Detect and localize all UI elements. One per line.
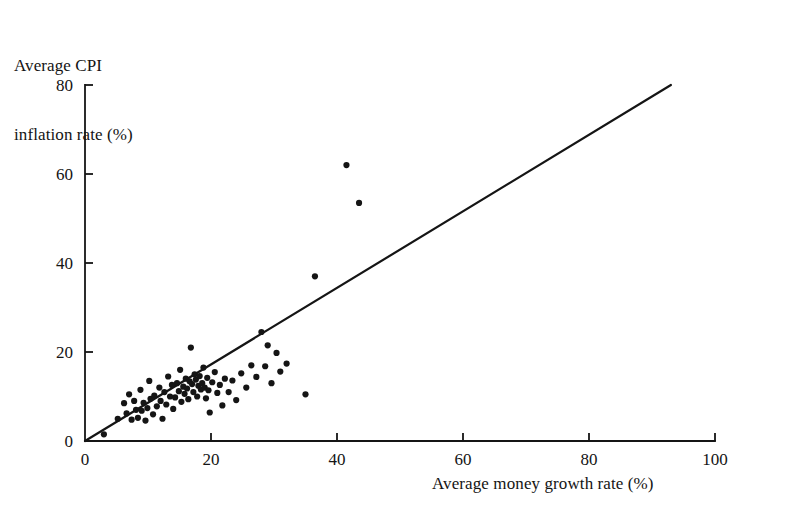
data-point	[222, 376, 228, 382]
data-point	[219, 402, 225, 408]
data-point	[170, 406, 176, 412]
data-point	[214, 390, 220, 396]
data-point	[243, 385, 249, 391]
data-point	[172, 394, 178, 400]
data-point	[203, 395, 209, 401]
data-point	[277, 368, 283, 374]
data-point	[165, 373, 171, 379]
data-point	[178, 399, 184, 405]
data-point	[174, 380, 180, 386]
data-point	[265, 342, 271, 348]
data-points	[101, 162, 362, 437]
x-tick-label: 20	[203, 450, 220, 469]
data-point	[140, 400, 146, 406]
data-point	[126, 391, 132, 397]
data-point	[137, 387, 143, 393]
data-point	[133, 407, 139, 413]
data-point	[185, 396, 191, 402]
x-tick-label: 60	[455, 450, 472, 469]
data-point	[343, 162, 349, 168]
data-point	[268, 380, 274, 386]
data-point	[163, 401, 169, 407]
y-tick-label: 60	[56, 165, 73, 184]
data-point	[131, 398, 137, 404]
data-point	[205, 387, 211, 393]
data-point	[135, 415, 141, 421]
data-point	[200, 364, 206, 370]
data-point	[144, 405, 150, 411]
data-point	[101, 431, 107, 437]
data-point	[177, 367, 183, 373]
y-tick-label: 0	[65, 432, 74, 451]
data-point	[273, 350, 279, 356]
data-point	[197, 373, 203, 379]
plot-area: 020406080100020406080	[0, 0, 788, 514]
tick-labels: 020406080100020406080	[56, 76, 728, 469]
y-tick-label: 80	[56, 76, 73, 95]
data-point	[356, 200, 362, 206]
data-point	[158, 398, 164, 404]
data-point	[209, 379, 215, 385]
data-point	[302, 391, 308, 397]
data-point	[284, 360, 290, 366]
axes	[85, 85, 715, 441]
data-point	[129, 417, 135, 423]
data-point	[151, 393, 157, 399]
data-point	[184, 385, 190, 391]
data-point	[262, 363, 268, 369]
y-tick-label: 40	[56, 254, 73, 273]
data-point	[176, 388, 182, 394]
data-point	[229, 377, 235, 383]
data-point	[258, 329, 264, 335]
data-point	[150, 411, 156, 417]
data-point	[123, 410, 129, 416]
data-point	[204, 375, 210, 381]
data-point	[188, 344, 194, 350]
x-tick-label: 100	[702, 450, 728, 469]
data-point	[146, 378, 152, 384]
x-tick-label: 40	[329, 450, 346, 469]
y-tick-label: 20	[56, 343, 73, 362]
x-tick-label: 0	[81, 450, 90, 469]
data-point	[238, 370, 244, 376]
data-point	[207, 409, 213, 415]
data-point	[159, 416, 165, 422]
data-point	[121, 400, 127, 406]
data-point	[161, 389, 167, 395]
data-point	[142, 417, 148, 423]
scatter-chart-figure: Average CPI inflation rate (%) Average m…	[0, 0, 788, 514]
data-point	[156, 385, 162, 391]
data-point	[115, 416, 121, 422]
data-point	[212, 369, 218, 375]
data-point	[217, 382, 223, 388]
data-point	[139, 408, 145, 414]
data-point	[194, 393, 200, 399]
data-point	[226, 389, 232, 395]
data-point	[253, 374, 259, 380]
data-point	[248, 362, 254, 368]
data-point	[181, 391, 187, 397]
x-tick-label: 80	[581, 450, 598, 469]
data-point	[312, 273, 318, 279]
data-point	[233, 397, 239, 403]
data-point	[154, 403, 160, 409]
